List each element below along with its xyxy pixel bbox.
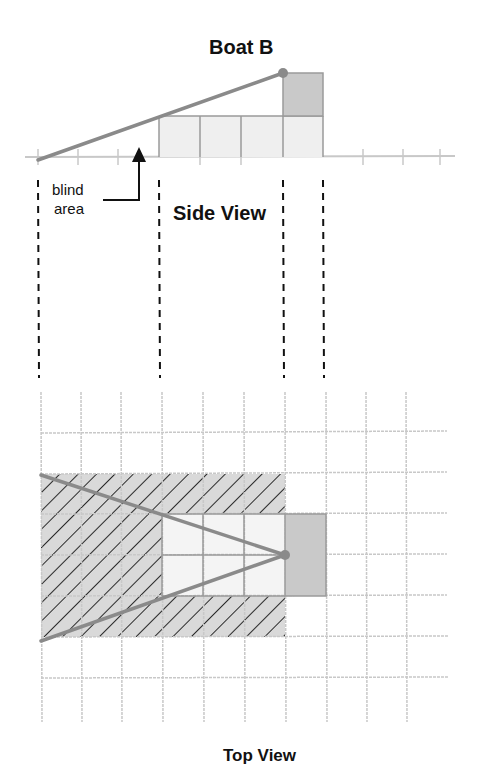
blind-area-label-line1: blind bbox=[52, 180, 84, 199]
side-view-label: Side View bbox=[173, 202, 266, 225]
side-view bbox=[25, 68, 455, 200]
boat-cabin-side bbox=[283, 73, 323, 116]
eye-point-top bbox=[280, 550, 290, 560]
boat-cabin-top bbox=[285, 514, 326, 596]
top-view-label: Top View bbox=[223, 746, 296, 766]
blind-area-label-line2: area bbox=[52, 199, 84, 218]
diagram-canvas bbox=[0, 0, 479, 773]
blind-area-label: blind area bbox=[52, 180, 84, 218]
eye-point-side bbox=[278, 68, 288, 78]
top-view bbox=[41, 392, 449, 722]
diagram-title: Boat B bbox=[209, 36, 273, 59]
blind-area-arrow-icon bbox=[103, 147, 146, 200]
